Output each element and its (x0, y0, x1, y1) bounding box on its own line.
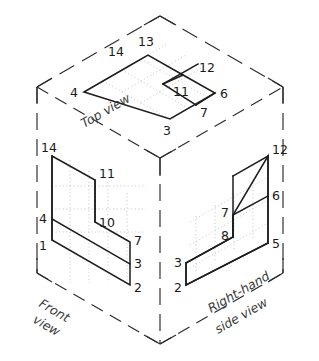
corner-stub-top-rear-right (268, 78, 283, 87)
top-view-edge-7-6 (196, 93, 215, 105)
top-view-vertex-label-12: 12 (199, 60, 215, 75)
glass-box-projection-figure: 14 13 12 11 4 6 7 3 Top view (0, 0, 319, 361)
side-view-group: 12 6 7 8 5 3 2 Right-hand side view (174, 142, 288, 337)
box-edge-top-rear-left (37, 16, 160, 87)
front-view-vertex-label-2: 2 (134, 280, 142, 295)
side-view-outline (186, 156, 268, 285)
side-view-vertex-label-5: 5 (272, 236, 280, 251)
front-view-edge-4-7 (52, 219, 130, 264)
front-view-vertex-label-10: 10 (99, 215, 115, 230)
front-view-outline (52, 156, 130, 285)
top-view-notch-edge-11-vert (163, 75, 183, 84)
side-view-vertex-label-3: 3 (174, 255, 182, 270)
corner-stub-bottom-apex-left (144, 335, 160, 344)
side-view-vertex-label-2: 2 (174, 280, 182, 295)
corner-stub-rear-apex-left (144, 16, 160, 25)
front-view-vertex-label-4: 4 (39, 211, 47, 226)
side-view-vertex-label-12: 12 (272, 142, 288, 157)
corner-stub-center-apex-left (144, 149, 160, 158)
top-view-vertex-label-7: 7 (200, 105, 208, 120)
drawing-canvas: 14 13 12 11 4 6 7 3 Top view (0, 0, 319, 361)
front-view-group: 14 11 10 4 1 7 3 2 Front view (31, 140, 147, 339)
top-view-group: 14 13 12 11 4 6 7 3 Top view (70, 34, 228, 138)
side-view-construction-lines (190, 177, 268, 272)
front-view-vertex-label-7: 7 (134, 233, 142, 248)
corner-stub-top-rear-left (37, 78, 52, 87)
front-view-vertex-label-11: 11 (99, 166, 115, 181)
side-view-vertex-label-6: 6 (272, 188, 280, 203)
front-view-vertex-label-3: 3 (134, 256, 142, 271)
top-view-vertex-label-13: 13 (138, 34, 154, 49)
corner-stub-bottom-apex-right (160, 335, 176, 344)
front-view-vertex-label-14: 14 (41, 140, 57, 155)
top-view-vertex-label-6: 6 (220, 86, 228, 101)
corner-stub-bottom-left (37, 273, 52, 282)
front-view-vertex-label-1: 1 (39, 238, 47, 253)
top-view-vertex-label-3: 3 (163, 123, 171, 138)
corner-stub-center-apex-right (160, 149, 176, 158)
side-view-vertex-label-7: 7 (221, 205, 229, 220)
top-view-vertex-label-4: 4 (70, 85, 78, 100)
top-view-vertex-label-11: 11 (173, 84, 189, 99)
side-view-vertex-label-8: 8 (221, 228, 229, 243)
corner-stub-rear-apex-right (160, 16, 176, 25)
top-view-vertex-label-14: 14 (108, 44, 124, 59)
top-view-label: Top view (78, 90, 133, 131)
